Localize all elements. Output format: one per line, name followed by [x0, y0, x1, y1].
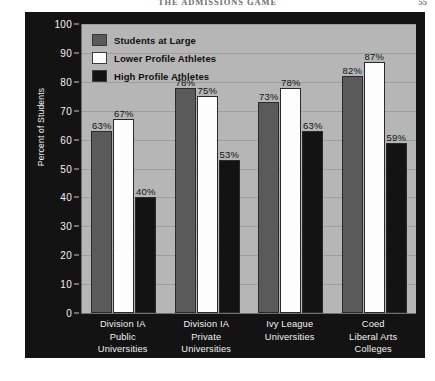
x-axis-label-line: Universities — [165, 343, 249, 356]
y-axis: Percent of Students 01020304050607080901… — [25, 12, 81, 313]
y-axis-tick-label: 50 — [32, 163, 72, 174]
y-axis-tick-label: 70 — [32, 105, 72, 116]
legend-color-swatch — [92, 52, 107, 64]
bar[interactable]: 59% — [386, 143, 407, 314]
bar-value-label: 78% — [281, 77, 301, 88]
bar[interactable]: 67% — [113, 119, 134, 313]
legend-item-label: High Profile Athletes — [114, 71, 209, 82]
y-axis-tick-mark — [74, 168, 79, 169]
x-axis-category-label: Division IAPublicUniversities — [81, 315, 165, 358]
page-running-head: THE ADMISSIONS GAME 55 — [0, 0, 435, 9]
bar-value-label: 63% — [303, 120, 323, 131]
y-axis-tick-mark — [74, 81, 79, 82]
legend-item: Lower Profile Athletes — [92, 50, 216, 66]
y-axis-tick-label: 40 — [32, 192, 72, 203]
x-axis-label-line: Ivy League — [248, 318, 332, 331]
y-axis-tick-mark — [74, 226, 79, 227]
y-axis-tick-mark — [74, 52, 79, 53]
y-axis-tick-label: 60 — [32, 134, 72, 145]
bar-chart-figure: Percent of Students 01020304050607080901… — [25, 12, 425, 358]
y-axis-tick-mark — [74, 139, 79, 140]
bar[interactable]: 78% — [175, 88, 196, 313]
x-axis-label-line: Division IA — [165, 318, 249, 331]
x-axis-category-label: Ivy LeagueUniversities — [248, 315, 332, 358]
bar-value-label: 82% — [342, 65, 362, 76]
legend-item: High Profile Athletes — [92, 68, 216, 84]
legend-color-swatch — [92, 34, 107, 46]
bar-group: 73%78%63% — [249, 24, 333, 313]
bar-value-label: 63% — [92, 120, 112, 131]
running-head-title: THE ADMISSIONS GAME — [0, 0, 435, 7]
y-axis-tick-mark — [74, 255, 79, 256]
bar[interactable]: 78% — [280, 88, 301, 313]
x-axis-label-line: Colleges — [332, 343, 416, 356]
page-number: 55 — [419, 0, 428, 7]
y-axis-tick-label: 80 — [32, 76, 72, 87]
y-axis-tick-label: 10 — [32, 279, 72, 290]
bar[interactable]: 63% — [302, 131, 323, 313]
chart-legend: Students at LargeLower Profile AthletesH… — [92, 32, 216, 86]
x-axis-label-line: Universities — [248, 331, 332, 344]
x-axis-label-line: Public — [81, 331, 165, 344]
plot-area: Students at LargeLower Profile AthletesH… — [81, 24, 416, 314]
bar-value-label: 73% — [259, 91, 279, 102]
x-axis-category-labels: Division IAPublicUniversitiesDivision IA… — [81, 315, 415, 358]
bar-value-label: 87% — [364, 51, 384, 62]
bar-value-label: 53% — [219, 149, 239, 160]
y-axis-tick-label: 90 — [32, 47, 72, 58]
legend-item: Students at Large — [92, 32, 216, 48]
legend-item-label: Students at Large — [114, 35, 196, 46]
bar[interactable]: 82% — [342, 76, 363, 313]
x-axis-label-line: Division IA — [81, 318, 165, 331]
bar-value-label: 40% — [136, 186, 156, 197]
bar[interactable]: 40% — [135, 197, 156, 313]
y-axis-tick-mark — [74, 110, 79, 111]
x-axis-category-label: CoedLiberal ArtsColleges — [332, 315, 416, 358]
y-axis-tick-label: 30 — [32, 221, 72, 232]
x-axis-label-line: Coed — [332, 318, 416, 331]
x-axis-label-line: Private — [165, 331, 249, 344]
y-axis-tick-mark — [74, 197, 79, 198]
x-axis-label-line: Liberal Arts — [332, 331, 416, 344]
bar[interactable]: 73% — [258, 102, 279, 313]
bar[interactable]: 87% — [364, 62, 385, 313]
y-axis-tick-label: 20 — [32, 250, 72, 261]
x-axis-label-line: Universities — [81, 343, 165, 356]
legend-color-swatch — [92, 70, 107, 82]
bar-value-label: 67% — [114, 108, 134, 119]
bar[interactable]: 63% — [91, 131, 112, 313]
bar-value-label: 59% — [386, 132, 406, 143]
bar[interactable]: 53% — [219, 160, 240, 313]
bar-value-label: 75% — [197, 85, 217, 96]
y-axis-tick-label: 0 — [32, 308, 72, 319]
y-axis-tick-mark — [74, 284, 79, 285]
y-axis-tick-mark — [74, 24, 79, 25]
x-axis-category-label: Division IAPrivateUniversities — [165, 315, 249, 358]
legend-item-label: Lower Profile Athletes — [114, 53, 216, 64]
bar-group: 82%87%59% — [333, 24, 417, 313]
y-axis-tick-mark — [74, 313, 79, 314]
bar[interactable]: 75% — [197, 96, 218, 313]
y-axis-tick-label: 100 — [32, 19, 72, 30]
